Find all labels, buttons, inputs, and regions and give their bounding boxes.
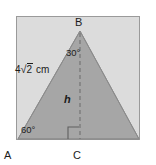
altitude-label-h: h: [64, 94, 71, 105]
vertex-label-c: C: [73, 150, 81, 161]
angle-label-60-degrees: 60°: [21, 125, 35, 135]
angle-label-30-degrees: 30°: [66, 48, 80, 58]
geometry-figure: B A C 30° 60° h 4√2 cm: [0, 0, 156, 165]
side-radicand: 2: [27, 63, 34, 76]
side-unit: cm: [36, 64, 49, 75]
vertex-label-a: A: [4, 150, 11, 161]
side-length-label-ab: 4√2 cm: [15, 63, 49, 76]
vertex-label-b: B: [75, 17, 82, 28]
